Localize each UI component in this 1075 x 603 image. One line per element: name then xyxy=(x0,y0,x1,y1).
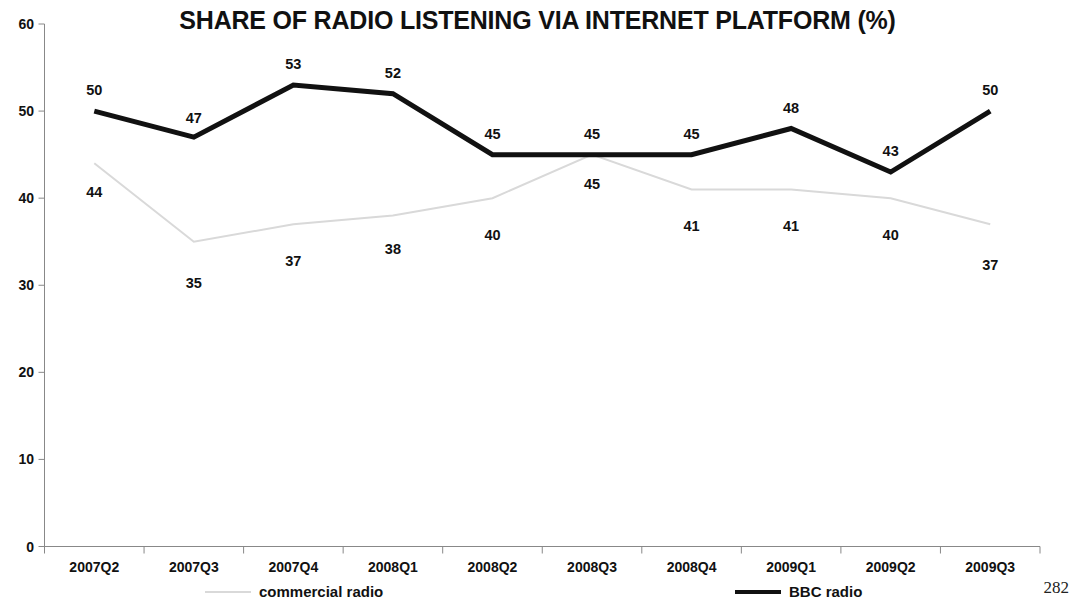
data-point-label: 40 xyxy=(472,228,512,243)
data-point-label: 35 xyxy=(174,276,214,291)
y-axis-tick-label: 0 xyxy=(0,540,34,554)
data-point-label: 41 xyxy=(672,219,712,234)
legend-swatch-commercial-radio xyxy=(205,591,251,593)
legend-label-bbc-radio: BBC radio xyxy=(789,583,862,600)
page-number: 282 xyxy=(1044,578,1070,598)
x-axis-tick-label: 2007Q3 xyxy=(144,560,244,574)
x-axis-tick-label: 2008Q2 xyxy=(443,560,543,574)
y-axis-tick-label: 40 xyxy=(0,191,34,205)
data-point-label: 45 xyxy=(572,127,612,142)
x-axis-tick-label: 2008Q4 xyxy=(642,560,742,574)
data-point-label: 45 xyxy=(472,127,512,142)
data-point-label: 45 xyxy=(672,127,712,142)
legend-label-commercial-radio: commercial radio xyxy=(259,583,383,600)
data-point-label: 38 xyxy=(373,242,413,257)
y-axis-tick-label: 60 xyxy=(0,17,34,31)
data-series-group xyxy=(94,85,990,242)
y-axis-ticks xyxy=(39,24,45,547)
data-point-label: 43 xyxy=(871,144,911,159)
data-point-label: 40 xyxy=(871,228,911,243)
data-point-label: 52 xyxy=(373,66,413,81)
y-axis-tick-label: 30 xyxy=(0,278,34,292)
x-axis-tick-label: 2008Q3 xyxy=(542,560,642,574)
y-axis-tick-label: 20 xyxy=(0,365,34,379)
y-axis-tick-label: 50 xyxy=(0,104,34,118)
series-line xyxy=(94,155,990,242)
data-point-label: 50 xyxy=(74,83,114,98)
legend-item-commercial-radio: commercial radio xyxy=(205,583,383,600)
data-point-label: 48 xyxy=(771,101,811,116)
x-axis-ticks xyxy=(45,547,1041,554)
data-point-label: 50 xyxy=(970,83,1010,98)
data-point-label: 47 xyxy=(174,111,214,126)
y-axis-tick-label: 10 xyxy=(0,452,34,466)
series-line xyxy=(94,85,990,172)
x-axis-tick-label: 2008Q1 xyxy=(343,560,443,574)
data-point-label: 44 xyxy=(74,185,114,200)
chart-page: SHARE OF RADIO LISTENING VIA INTERNET PL… xyxy=(0,0,1075,603)
data-point-label: 45 xyxy=(572,177,612,192)
data-point-label: 37 xyxy=(273,254,313,269)
legend-item-bbc-radio: BBC radio xyxy=(735,583,862,600)
x-axis-tick-label: 2009Q2 xyxy=(841,560,941,574)
x-axis-tick-label: 2007Q2 xyxy=(45,560,145,574)
data-point-label: 41 xyxy=(771,219,811,234)
legend-swatch-bbc-radio xyxy=(735,590,781,594)
x-axis-tick-label: 2009Q3 xyxy=(940,560,1040,574)
data-point-label: 37 xyxy=(970,258,1010,273)
data-point-label: 53 xyxy=(273,57,313,72)
x-axis-tick-label: 2007Q4 xyxy=(244,560,344,574)
plot-area xyxy=(0,0,1075,603)
x-axis-tick-label: 2009Q1 xyxy=(741,560,841,574)
